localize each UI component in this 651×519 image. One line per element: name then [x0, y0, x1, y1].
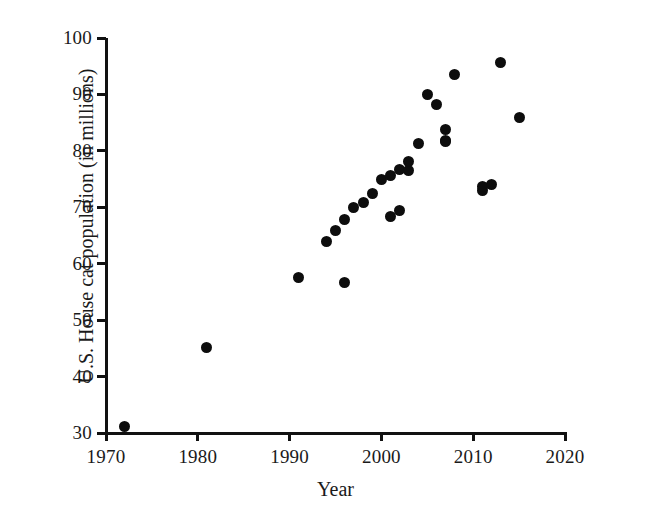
data-point: [495, 57, 506, 68]
data-point: [321, 236, 332, 247]
x-tick-mark: [380, 432, 383, 441]
data-point: [330, 225, 341, 236]
y-tick-mark: [97, 93, 106, 96]
data-point: [119, 421, 130, 432]
plot-area: 30405060708090100 1970198019902000201020…: [0, 0, 651, 519]
data-point: [422, 89, 433, 100]
data-point: [440, 124, 451, 135]
y-axis-title: U.S. House cat population (in millions): [75, 16, 97, 436]
data-point: [358, 197, 369, 208]
data-point: [394, 205, 405, 216]
data-point: [339, 214, 350, 225]
x-tick-label: 2010: [438, 446, 508, 467]
x-axis-title: Year: [105, 478, 566, 500]
scatter-plot-figure: 30405060708090100 1970198019902000201020…: [0, 0, 651, 519]
x-tick-mark: [288, 432, 291, 441]
data-point: [514, 112, 525, 123]
x-tick-label: 1990: [255, 446, 325, 467]
data-point: [431, 99, 442, 110]
y-tick-mark: [97, 375, 106, 378]
y-tick-mark: [97, 37, 106, 40]
x-tick-mark: [196, 432, 199, 441]
x-tick-mark: [564, 432, 567, 441]
data-point: [403, 156, 414, 167]
x-axis-line: [105, 432, 566, 435]
x-tick-mark: [105, 432, 108, 441]
y-tick-mark: [97, 262, 106, 265]
x-tick-label: 1980: [163, 446, 233, 467]
data-point: [201, 342, 212, 353]
y-tick-mark: [97, 206, 106, 209]
data-point: [293, 272, 304, 283]
data-point: [413, 138, 424, 149]
x-tick-label: 1970: [71, 446, 141, 467]
data-point: [440, 136, 451, 147]
x-tick-mark: [472, 432, 475, 441]
data-point: [486, 179, 497, 190]
x-tick-label: 2000: [346, 446, 416, 467]
y-axis-title-holder: U.S. House cat population (in millions): [36, 0, 56, 470]
x-tick-label: 2020: [530, 446, 600, 467]
data-point: [367, 188, 378, 199]
y-tick-mark: [97, 149, 106, 152]
y-tick-mark: [97, 319, 106, 322]
data-point: [449, 69, 460, 80]
data-point: [339, 277, 350, 288]
